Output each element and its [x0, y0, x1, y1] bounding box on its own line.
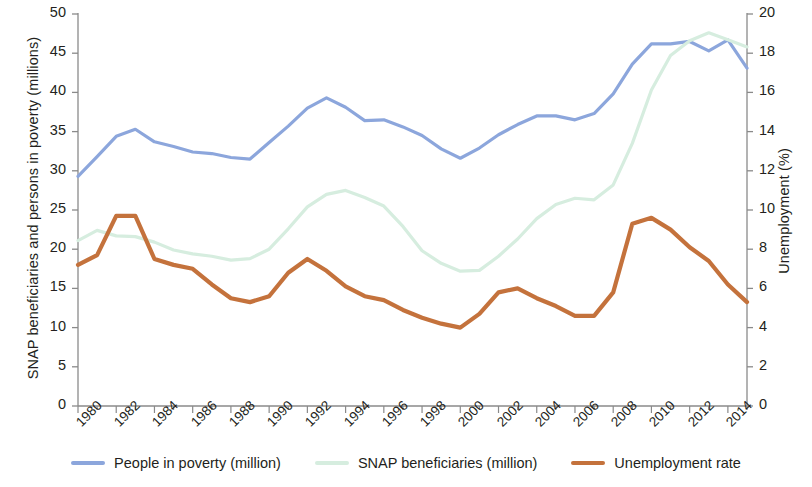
y-axis-right-tick-label: 6	[759, 278, 789, 294]
legend-swatch-icon	[571, 461, 605, 465]
chart-legend: People in poverty (million)SNAP benefici…	[0, 455, 812, 471]
legend-item[interactable]: People in poverty (million)	[71, 455, 281, 471]
y-axis-right-tick-label: 20	[759, 4, 789, 20]
legend-label: People in poverty (million)	[114, 455, 281, 471]
y-axis-right-tick-label: 12	[759, 161, 789, 177]
y-axis-left-tick-label: 20	[36, 239, 66, 255]
y-axis-left-tick-label: 0	[36, 396, 66, 412]
y-axis-left-tick-label: 50	[36, 4, 66, 20]
y-axis-left-tick-label: 5	[36, 357, 66, 373]
y-axis-left-tick-label: 35	[36, 122, 66, 138]
y-axis-right-tick-label: 10	[759, 200, 789, 216]
axes	[72, 13, 753, 413]
legend-swatch-icon	[315, 461, 349, 465]
series-line	[78, 33, 747, 271]
chart-container: SNAP beneficiaries and persons in povert…	[0, 0, 812, 487]
y-axis-left-tick-label: 45	[36, 43, 66, 59]
y-axis-right-tick-label: 0	[759, 396, 789, 412]
y-axis-left-tick-label: 40	[36, 82, 66, 98]
series-line	[78, 216, 747, 328]
y-axis-left-tick-label: 25	[36, 200, 66, 216]
y-axis-right-tick-label: 8	[759, 239, 789, 255]
y-axis-right-tick-label: 4	[759, 318, 789, 334]
legend-swatch-icon	[71, 461, 105, 465]
y-axis-left-tick-label: 10	[36, 318, 66, 334]
y-axis-right-tick-label: 2	[759, 357, 789, 373]
y-axis-right-tick-label: 18	[759, 43, 789, 59]
legend-item[interactable]: Unemployment rate	[571, 455, 741, 471]
legend-label: Unemployment rate	[614, 455, 741, 471]
y-axis-right-tick-label: 14	[759, 122, 789, 138]
legend-label: SNAP beneficiaries (million)	[358, 455, 537, 471]
y-axis-left-tick-label: 30	[36, 161, 66, 177]
y-axis-right-tick-label: 16	[759, 82, 789, 98]
y-axis-left-tick-label: 15	[36, 278, 66, 294]
data-series	[78, 33, 747, 328]
legend-item[interactable]: SNAP beneficiaries (million)	[315, 455, 537, 471]
